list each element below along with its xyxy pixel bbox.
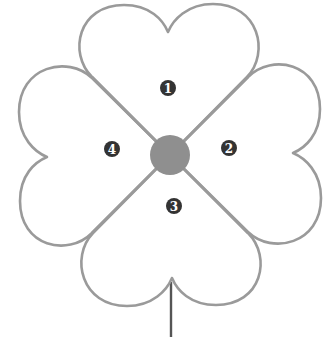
- badge-label: 4: [108, 143, 116, 157]
- center-circle: [150, 135, 190, 175]
- badge-label: 3: [170, 200, 178, 214]
- badge-1: 1: [160, 80, 176, 96]
- badge-3: 3: [166, 198, 182, 214]
- badge-2: 2: [221, 140, 237, 156]
- clover-diagram: 1 2 3 4: [0, 0, 326, 337]
- badge-label: 2: [225, 142, 233, 156]
- badge-4: 4: [104, 141, 120, 157]
- badge-label: 1: [164, 82, 172, 96]
